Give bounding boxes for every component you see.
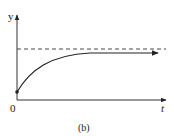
origin-label: 0 xyxy=(10,102,16,114)
growth-curve xyxy=(17,53,158,92)
initial-point-marker xyxy=(15,90,19,94)
y-axis-label: y xyxy=(8,10,14,22)
x-axis-label: t xyxy=(161,102,165,114)
figure-caption: (b) xyxy=(78,122,90,134)
diagram-canvas: y 0 t (b) xyxy=(0,0,174,136)
